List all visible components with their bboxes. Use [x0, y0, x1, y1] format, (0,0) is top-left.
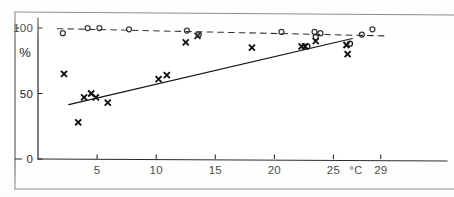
- data-point-cross: [156, 76, 162, 82]
- data-point-cross: [164, 72, 170, 78]
- x-axis-tick-label: 5: [94, 164, 101, 176]
- y-axis-tick-label: 0: [26, 153, 33, 165]
- data-point-circle: [85, 26, 90, 31]
- data-markers: [60, 26, 375, 126]
- axis-labels: 05010051015202529%°C: [13, 22, 387, 176]
- dashed-fit-line: [57, 29, 384, 36]
- data-point-cross: [302, 43, 308, 49]
- y-axis-tick-label: 50: [20, 88, 33, 100]
- data-point-circle: [312, 29, 317, 34]
- x-axis: [38, 159, 447, 161]
- x-axis-tick-label: 15: [209, 164, 222, 176]
- data-point-cross: [105, 100, 111, 106]
- y-axis-tick-label: 100: [13, 22, 33, 34]
- frame-top-rule: [14, 12, 454, 15]
- y-axis-unit-label: %: [19, 45, 31, 60]
- data-point-circle: [279, 29, 284, 34]
- data-point-cross: [183, 39, 189, 45]
- data-point-cross: [81, 94, 87, 100]
- data-point-cross: [75, 119, 81, 125]
- solid-fit-line: [69, 38, 353, 104]
- data-point-circle: [184, 28, 189, 33]
- fit-lines: [57, 29, 384, 105]
- x-axis-tick-label: 10: [150, 164, 163, 176]
- data-point-circle: [359, 32, 364, 37]
- axes: [15, 18, 447, 161]
- data-point-cross: [313, 38, 319, 44]
- data-point-circle: [370, 27, 375, 32]
- plot-canvas: 05010051015202529%°C: [0, 0, 454, 197]
- data-point-circle: [97, 26, 102, 31]
- x-axis-tick-label: 25: [327, 164, 340, 176]
- data-point-cross: [195, 33, 201, 39]
- data-point-circle: [60, 31, 65, 36]
- figure-frame: [14, 12, 454, 189]
- x-axis-unit-label: °C: [350, 164, 363, 176]
- data-point-cross: [249, 45, 255, 51]
- data-point-cross: [61, 71, 67, 77]
- scatter-plot-figure: 05010051015202529%°C: [0, 0, 454, 197]
- x-axis-tick-label: 29: [374, 164, 387, 176]
- data-point-cross: [345, 51, 351, 57]
- x-axis-tick-label: 20: [268, 164, 281, 176]
- data-point-circle: [127, 27, 132, 32]
- data-point-circle: [318, 31, 323, 36]
